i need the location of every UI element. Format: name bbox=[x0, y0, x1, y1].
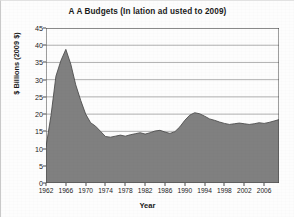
y-axis-tick-mark bbox=[43, 131, 46, 132]
x-axis-tick-label: 2006 bbox=[257, 187, 272, 194]
x-axis-tick-label: 1994 bbox=[197, 187, 212, 194]
chart-title: A A Budgets (In lation ad usted to 2009) bbox=[1, 7, 294, 16]
series-area-fill bbox=[46, 49, 279, 183]
x-axis-tick-mark bbox=[224, 183, 225, 186]
x-axis-tick-mark bbox=[244, 183, 245, 186]
x-axis-tick-label: 1982 bbox=[138, 187, 153, 194]
y-axis-tick-mark bbox=[43, 165, 46, 166]
x-axis-tick-label: 1998 bbox=[217, 187, 232, 194]
x-axis-tick-label: 1986 bbox=[158, 187, 173, 194]
x-axis-tick-mark bbox=[125, 183, 126, 186]
chart-figure: A A Budgets (In lation ad usted to 2009)… bbox=[0, 0, 294, 217]
x-axis-tick-mark bbox=[105, 183, 106, 186]
y-axis-tick-mark bbox=[43, 79, 46, 80]
y-axis-tick-mark bbox=[43, 96, 46, 97]
area-chart-svg bbox=[46, 28, 279, 183]
x-axis-tick-label: 1990 bbox=[177, 187, 192, 194]
x-axis-tick-label: 1966 bbox=[58, 187, 73, 194]
x-axis-label: Year bbox=[1, 201, 294, 210]
y-axis-tick-mark bbox=[43, 148, 46, 149]
x-axis-tick-mark bbox=[204, 183, 205, 186]
x-axis-tick-label: 2002 bbox=[237, 187, 252, 194]
x-axis-tick-label: 1962 bbox=[39, 187, 54, 194]
y-axis-label: $ Billions (2009 $) bbox=[12, 9, 21, 119]
x-axis-tick-mark bbox=[65, 183, 66, 186]
x-axis-tick-label: 1974 bbox=[98, 187, 113, 194]
x-axis-tick-mark bbox=[85, 183, 86, 186]
y-axis-tick-mark bbox=[43, 28, 46, 29]
x-axis-tick-mark bbox=[164, 183, 165, 186]
y-axis-tick-mark bbox=[43, 114, 46, 115]
y-axis-tick-mark bbox=[43, 45, 46, 46]
x-axis-tick-label: 1978 bbox=[118, 187, 133, 194]
x-axis-tick-mark bbox=[46, 183, 47, 186]
x-axis-tick-mark bbox=[264, 183, 265, 186]
x-axis-tick-mark bbox=[184, 183, 185, 186]
x-axis-tick-label: 1970 bbox=[78, 187, 93, 194]
x-axis-tick-mark bbox=[145, 183, 146, 186]
y-axis-tick-mark bbox=[43, 62, 46, 63]
plot-area: 0510152025303540451962196619701974197819… bbox=[46, 28, 279, 183]
